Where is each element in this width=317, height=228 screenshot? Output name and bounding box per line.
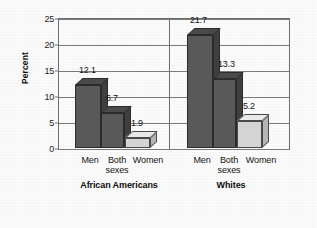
x-label-text: Men xyxy=(81,155,98,165)
y-tick-label-25: 25 xyxy=(44,14,54,24)
x-label-text-line2: sexes xyxy=(105,165,128,175)
y-axis-title: Percent xyxy=(20,52,30,84)
gridline-25: 25 xyxy=(59,19,289,20)
group-label-whites: Whites xyxy=(217,180,246,190)
y-tick-mark-25 xyxy=(55,19,59,20)
bar-front-face xyxy=(125,138,150,148)
group-label-african-americans: African Americans xyxy=(80,180,158,190)
gridline-20: 20 xyxy=(59,45,289,46)
bar-whites-women[interactable] xyxy=(237,121,262,148)
y-tick-mark-0 xyxy=(55,149,59,150)
y-tick-mark-15 xyxy=(55,71,59,72)
x-label-text: Women xyxy=(133,155,163,165)
x-label-text-line1: Both xyxy=(220,155,238,165)
y-tick-label-0: 0 xyxy=(49,144,54,154)
bar-front-face xyxy=(213,79,236,148)
x-label-text-line2: sexes xyxy=(217,165,240,175)
y-tick-label-10: 10 xyxy=(44,92,54,102)
plot-area: 25 20 15 10 5 0 12.1 xyxy=(58,18,290,150)
bar-value-african-americans-both-sexes: 6.7 xyxy=(106,93,118,103)
bar-front-face xyxy=(237,121,262,148)
y-tick-label-20: 20 xyxy=(44,40,54,50)
bar-african-americans-men[interactable] xyxy=(75,85,101,148)
x-label-whites-both-sexes: Both sexes xyxy=(217,155,240,175)
bar-whites-both-sexes[interactable] xyxy=(213,79,236,148)
bar-front-face xyxy=(101,113,124,148)
bar-african-americans-both-sexes[interactable] xyxy=(101,113,124,148)
bar-value-whites-women: 5.2 xyxy=(243,101,255,111)
bar-african-americans-women[interactable] xyxy=(125,138,150,148)
bar-value-whites-men: 21.7 xyxy=(190,15,207,25)
bar-front-face xyxy=(75,85,101,148)
x-label-whites-men: Men xyxy=(193,155,210,165)
y-tick-mark-20 xyxy=(55,45,59,46)
y-tick-mark-10 xyxy=(55,97,59,98)
bar-whites-men[interactable] xyxy=(187,35,213,148)
group-divider xyxy=(169,19,170,149)
x-label-african-americans-both-sexes: Both sexes xyxy=(105,155,128,175)
x-label-text: Women xyxy=(246,155,276,165)
y-tick-label-15: 15 xyxy=(44,66,54,76)
x-label-text: Men xyxy=(193,155,210,165)
x-label-whites-women: Women xyxy=(246,155,276,165)
bar-front-face xyxy=(187,35,213,148)
x-label-african-americans-women: Women xyxy=(133,155,163,165)
chart-figure: Percent 25 20 15 10 5 0 xyxy=(0,0,317,228)
gridline-0: 0 xyxy=(59,149,289,150)
bar-value-african-americans-women: 1.9 xyxy=(131,118,143,128)
bar-value-african-americans-men: 12.1 xyxy=(79,65,96,75)
x-label-text-line1: Both xyxy=(108,155,126,165)
y-tick-label-5: 5 xyxy=(49,118,54,128)
x-label-african-americans-men: Men xyxy=(81,155,98,165)
bar-value-whites-both-sexes: 13.3 xyxy=(218,59,235,69)
y-tick-mark-5 xyxy=(55,123,59,124)
